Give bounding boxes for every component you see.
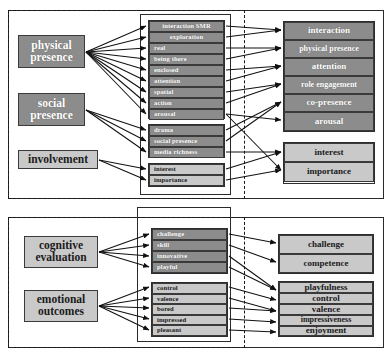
arrow-layer xyxy=(0,0,392,358)
diagram-canvas: physical presence social presence involv… xyxy=(0,0,392,358)
